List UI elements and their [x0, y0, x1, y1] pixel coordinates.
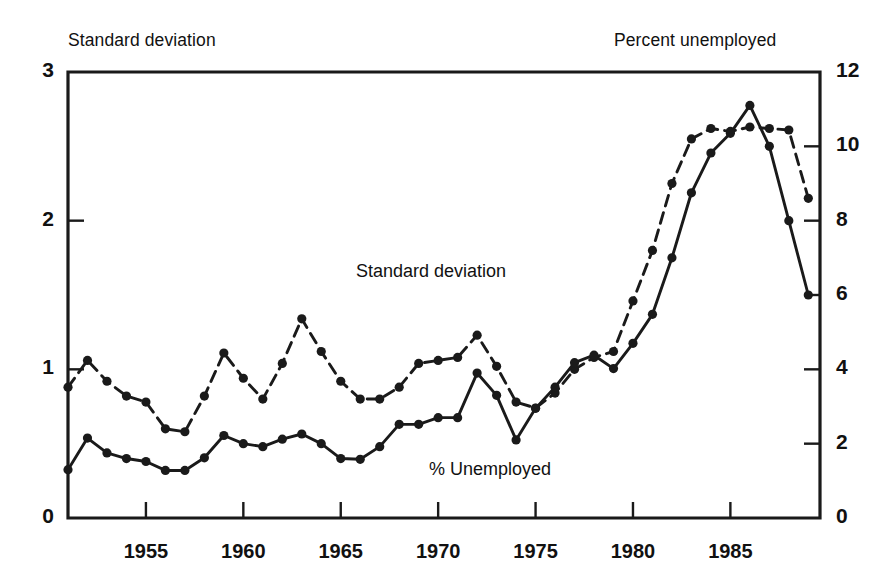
series-marker [102, 448, 111, 457]
series-marker [180, 427, 189, 436]
series-marker [453, 353, 462, 362]
series-marker [531, 404, 540, 413]
data-series [63, 101, 813, 475]
series-marker [102, 377, 111, 386]
series-marker [765, 124, 774, 133]
series-marker [706, 148, 715, 157]
series-marker [687, 134, 696, 143]
series-marker [765, 142, 774, 151]
series-marker [200, 391, 209, 400]
series-marker [297, 314, 306, 323]
series-marker [492, 391, 501, 400]
left-tick-label: 0 [16, 504, 54, 528]
series-marker [161, 466, 170, 475]
plot-border [68, 72, 820, 518]
series-marker [453, 413, 462, 422]
plot-frame [68, 72, 820, 518]
series-marker [395, 420, 404, 429]
right-tick-label: 6 [836, 281, 880, 305]
series-marker [434, 356, 443, 365]
series-marker [745, 101, 754, 110]
right-axis-title: Percent unemployed [614, 30, 776, 51]
series-marker [706, 124, 715, 133]
series-marker [609, 364, 618, 373]
series-marker [258, 394, 267, 403]
figure-container: Standard deviation Percent unemployed St… [0, 0, 885, 585]
series-marker [219, 348, 228, 357]
x-tick-label: 1965 [307, 540, 375, 563]
series-marker [297, 429, 306, 438]
series-marker [726, 129, 735, 138]
series-marker [63, 383, 72, 392]
series-marker [784, 125, 793, 134]
series-marker [239, 439, 248, 448]
chart-plot [0, 0, 885, 585]
series-marker [745, 122, 754, 131]
series-marker [356, 455, 365, 464]
series-marker [83, 356, 92, 365]
series-marker [161, 424, 170, 433]
series-marker [317, 347, 326, 356]
series-marker [239, 374, 248, 383]
series-marker [648, 310, 657, 319]
series-marker [200, 453, 209, 462]
x-tick-label: 1970 [404, 540, 472, 563]
series-marker [180, 466, 189, 475]
series-marker [414, 420, 423, 429]
x-tick-label: 1960 [209, 540, 277, 563]
series-marker [628, 296, 637, 305]
x-tick-label: 1955 [112, 540, 180, 563]
left-tick-label: 1 [16, 355, 54, 379]
series-marker [434, 413, 443, 422]
x-tick-label: 1980 [599, 540, 667, 563]
annotation-percent-unemployed: % Unemployed [429, 459, 551, 480]
left-axis-title: Standard deviation [68, 30, 216, 51]
series-marker [219, 431, 228, 440]
right-tick-label: 8 [836, 207, 880, 231]
series-marker [550, 383, 559, 392]
series-marker [141, 457, 150, 466]
series-marker [122, 454, 131, 463]
series-marker [804, 194, 813, 203]
series-marker [804, 290, 813, 299]
series-marker [511, 397, 520, 406]
series-marker [570, 358, 579, 367]
right-tick-label: 4 [836, 355, 880, 379]
series-marker [258, 442, 267, 451]
series-marker [589, 351, 598, 360]
series-marker [687, 188, 696, 197]
series-marker [511, 435, 520, 444]
series-marker [317, 439, 326, 448]
right-tick-label: 10 [836, 132, 880, 156]
series-marker [122, 391, 131, 400]
left-tick-label: 2 [16, 207, 54, 231]
series-marker [278, 359, 287, 368]
right-tick-label: 12 [836, 58, 880, 82]
left-tick-label: 3 [16, 58, 54, 82]
annotation-standard-deviation: Standard deviation [356, 261, 506, 282]
series-marker [83, 433, 92, 442]
right-tick-label: 2 [836, 430, 880, 454]
series-marker [336, 454, 345, 463]
x-tick-label: 1975 [502, 540, 570, 563]
series-marker [395, 383, 404, 392]
series-marker [141, 397, 150, 406]
series-marker [414, 359, 423, 368]
series-marker [63, 465, 72, 474]
series-marker [609, 347, 618, 356]
series-marker [278, 435, 287, 444]
series-marker [336, 377, 345, 386]
series-marker [356, 394, 365, 403]
series-marker [375, 442, 384, 451]
right-tick-label: 0 [836, 504, 880, 528]
x-tick-label: 1985 [696, 540, 764, 563]
series-marker [473, 368, 482, 377]
series-marker [667, 253, 676, 262]
series-marker [628, 339, 637, 348]
series-marker [667, 179, 676, 188]
series-marker [375, 394, 384, 403]
series-marker [648, 246, 657, 255]
series-marker [492, 362, 501, 371]
series-marker [784, 216, 793, 225]
series-marker [473, 331, 482, 340]
